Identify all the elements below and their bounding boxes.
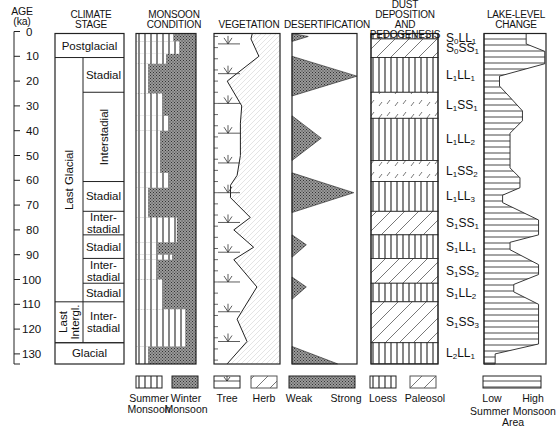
legend-weak-label: Weak <box>282 393 316 404</box>
climate-stage-label: Postglacial <box>55 34 124 58</box>
age-tick-label: 110 <box>22 298 40 310</box>
climate-stage-header: CLIMATE STAGE <box>56 10 126 30</box>
age-axis <box>14 32 20 365</box>
age-tick-label: 60 <box>26 174 39 186</box>
dust-unit-label: L2LL1 <box>446 347 475 363</box>
age-tick-label: 10 <box>26 50 39 62</box>
dust-unit-label: L1LL2 <box>446 133 475 149</box>
climate-stage-label: LastIntergl. <box>55 302 83 343</box>
climate-stage-label: Stadial <box>83 182 124 212</box>
age-tick-label: 120 <box>22 323 41 335</box>
age-tick-label: 20 <box>26 75 39 87</box>
legend-paleosol-swatch <box>410 376 436 388</box>
vegetation-column <box>214 34 280 365</box>
climate-stage-label: Glacial <box>55 343 124 364</box>
vegetation-header: VEGETATION <box>211 20 287 30</box>
climate-stage-label: Stadial <box>83 283 124 302</box>
age-tick-label: 80 <box>26 224 39 236</box>
dust-unit-label: L1SS1 <box>446 99 478 115</box>
climate-stage-label: Inter-stadial <box>83 302 124 343</box>
climate-stage-label: Inter-stadial <box>83 211 124 235</box>
dust-unit-label: L1LL3 <box>446 190 475 206</box>
legend-tree-swatch <box>214 376 240 388</box>
dust-unit-label: L1LL1 <box>446 69 475 85</box>
legend-swatches <box>136 376 541 388</box>
legend-loess-label: Loess <box>364 393 402 404</box>
climate-stage-label: Last Glacial <box>55 58 83 302</box>
dust-unit-label: S1LL2 <box>446 287 476 303</box>
monsoon-header: MONSOON CONDITION <box>134 10 214 30</box>
dust-unit-label: S1LL1 <box>446 241 476 257</box>
age-tick-label: 50 <box>26 150 39 162</box>
lake-level-column <box>484 34 546 365</box>
legend-high-label: High <box>518 393 548 404</box>
axis-title: AGE (ka) <box>5 6 39 26</box>
climate-stage-label: Stadial <box>83 58 124 93</box>
monsoon-column <box>136 34 196 365</box>
dust-column <box>371 34 438 365</box>
dust-unit-label: S1SS2 <box>446 265 479 281</box>
age-tick-label: 30 <box>26 100 39 112</box>
desertification-column <box>292 34 357 365</box>
dust-header: DUST DEPOSITION AND PEDOGENESIS <box>362 0 448 40</box>
legend-summer-monsoon-area-label: Summer Monsoon Area <box>468 406 556 428</box>
dust-unit-label: L1SS2 <box>446 165 478 181</box>
climate-stage-label: Inter-stadial <box>83 258 124 283</box>
legend-lake-level-swatch <box>483 376 541 388</box>
age-tick-label: 100 <box>22 274 41 286</box>
legend-strong-label: Strong <box>326 393 366 404</box>
legend-winter-monsoon-label: Winter Monsoon <box>162 393 210 415</box>
legend-paleosol-label: Paleosol <box>402 393 448 404</box>
legend-loess-swatch <box>370 376 396 388</box>
age-tick-label: 0 <box>26 26 32 38</box>
legend-winter-monsoon-swatch <box>172 376 198 388</box>
legend-tree-label: Tree <box>210 393 244 404</box>
dust-unit-label: S1SS3 <box>446 316 479 332</box>
dust-unit-label: S0SS1 <box>446 42 479 58</box>
desertification-header: DESERTIFICATION <box>284 20 366 30</box>
age-tick-label: 90 <box>26 249 39 261</box>
legend-herb-label: Herb <box>246 393 282 404</box>
climate-stage-label: Stadial <box>83 235 124 259</box>
climate-stage-label: Interstadial <box>97 92 109 181</box>
age-tick-label: 40 <box>26 125 39 137</box>
dust-unit-label: S1SS1 <box>446 217 479 233</box>
lake-level-header: LAKE-LEVEL CHANGE <box>478 10 554 30</box>
age-tick-label: 70 <box>26 199 39 211</box>
legend-summer-monsoon-swatch <box>136 376 162 388</box>
legend-low-label: Low <box>478 393 506 404</box>
age-tick-label: 130 <box>22 348 41 360</box>
legend-herb-swatch <box>251 376 277 388</box>
legend-desertification-swatch <box>289 376 355 388</box>
